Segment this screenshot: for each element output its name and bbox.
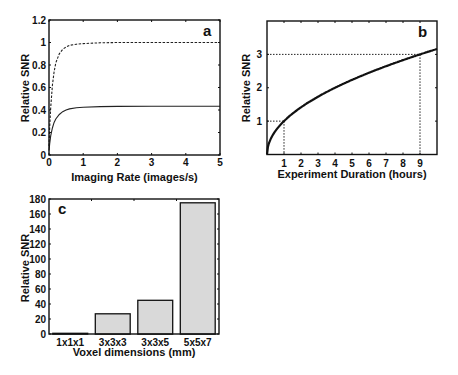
- panel-a-ytick-label: 1.2: [32, 15, 46, 26]
- panel-a-ticks: 01234500.20.40.60.811.2: [32, 15, 223, 169]
- panel-c-ytick-label: 20: [35, 314, 47, 325]
- panel-b-xtick-label: 3: [315, 158, 321, 169]
- panel-b-xlabel: Experiment Duration (hours): [277, 168, 426, 180]
- panel-a-ytick-label: 0: [40, 150, 46, 161]
- panel-b-label: b: [418, 23, 427, 40]
- panel-a-ytick-label: 1: [40, 37, 46, 48]
- panel-b-ytick-label: 2: [256, 82, 262, 93]
- panel-c-ytick-label: 160: [29, 209, 46, 220]
- panel-a-curves: [49, 43, 220, 151]
- panel-c-bar: [95, 314, 130, 334]
- panel-c-bar: [180, 203, 215, 334]
- panel-b-ylabel: Relative SNR: [240, 54, 252, 123]
- panel-a-chart: 01234500.20.40.60.811.2 a Imaging Rate (…: [19, 15, 223, 184]
- panel-c-xlabel: Voxel dimensions (mm): [73, 346, 196, 358]
- panel-b-axes-box: [267, 21, 437, 155]
- panel-a-axes-box: [49, 20, 220, 155]
- panel-a-xtick-label: 3: [149, 157, 155, 168]
- panel-a-xtick-label: 1: [80, 157, 86, 168]
- panel-c-ytick-label: 40: [35, 299, 47, 310]
- panel-b-xtick-label: 7: [383, 158, 389, 169]
- panel-b-guides: [267, 54, 420, 154]
- panel-b-curves: [267, 49, 437, 155]
- panel-c-bar: [138, 300, 173, 334]
- panel-b-ytick-label: 1: [256, 116, 262, 127]
- panel-b-xtick-label: 9: [417, 158, 423, 169]
- figure: 01234500.20.40.60.811.2 a Imaging Rate (…: [0, 0, 458, 375]
- panel-a-ytick-label: 0.4: [32, 105, 46, 116]
- panel-c-ytick-label: 100: [29, 254, 46, 265]
- panel-a-ytick-label: 0.2: [32, 127, 46, 138]
- panel-c-chart: 1x1x13x3x33x3x55x5x702040608010012014016…: [19, 194, 219, 359]
- panel-b-xtick-label: 2: [298, 158, 304, 169]
- panel-c-bars: [53, 203, 215, 334]
- panel-b-xtick-label: 4: [332, 158, 338, 169]
- panel-a-ytick-label: 0.8: [32, 60, 46, 71]
- panel-c-label: c: [58, 200, 66, 217]
- panel-a-line-dashed: [49, 43, 220, 147]
- panel-a-label: a: [203, 22, 212, 39]
- panel-b-xtick-label: 6: [366, 158, 372, 169]
- panel-a-line-solid: [49, 106, 220, 150]
- panel-a-xlabel: Imaging Rate (images/s): [71, 171, 198, 183]
- panel-c-ytick-label: 60: [35, 284, 47, 295]
- panel-b-ytick-label: 3: [256, 49, 262, 60]
- panel-c-ytick-label: 0: [40, 329, 46, 340]
- panel-a-xtick-label: 4: [183, 157, 189, 168]
- panel-c-ylabel: Relative SNR: [19, 234, 31, 303]
- panel-a-ylabel: Relative SNR: [19, 54, 31, 123]
- panel-b-xtick-label: 5: [349, 158, 355, 169]
- panel-c-ytick-label: 140: [29, 224, 46, 235]
- panel-c-ytick-label: 180: [29, 194, 46, 205]
- panel-c-ytick-label: 120: [29, 239, 46, 250]
- panel-a-xtick-label: 0: [46, 157, 52, 168]
- panel-a-xtick-label: 2: [115, 157, 121, 168]
- panel-b-chart: 123456789123 b Experiment Duration (hour…: [240, 21, 437, 180]
- panel-a-ytick-label: 0.6: [32, 82, 46, 93]
- panel-c-ytick-label: 80: [35, 269, 47, 280]
- panel-b-xtick-label: 8: [400, 158, 406, 169]
- panel-b-line: [267, 49, 437, 155]
- panel-b-xtick-label: 1: [281, 158, 287, 169]
- panel-a-xtick-label: 5: [217, 157, 223, 168]
